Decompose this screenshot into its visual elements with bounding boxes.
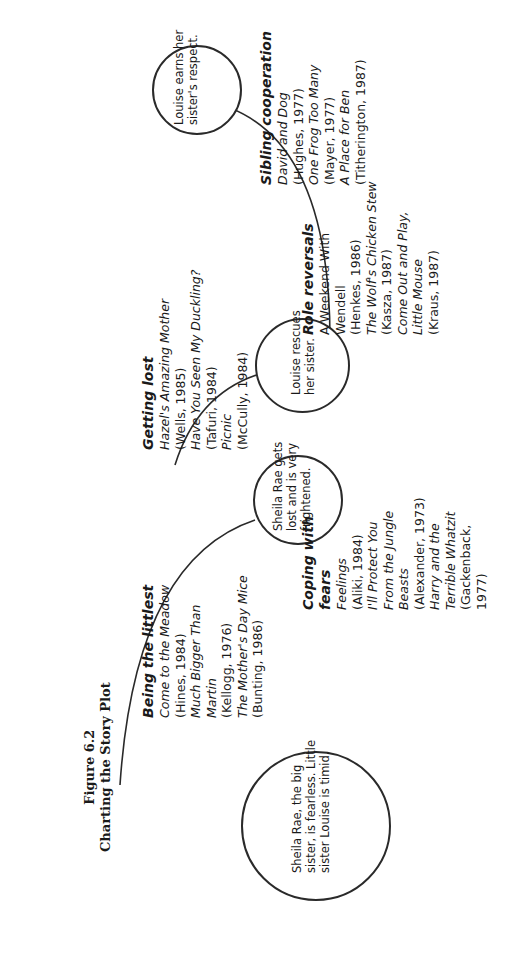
plot-node-1: Sheila Rae, the big sister, is fearless.… xyxy=(241,751,391,901)
theme-coping-with-fears: Coping with fears Feelings (Aliki, 1984)… xyxy=(300,497,489,610)
figure-number: Figure 6.2 xyxy=(82,682,98,852)
figure-caption: Charting the Story Plot xyxy=(98,682,114,852)
theme-getting-lost: Getting lost Hazel's Amazing Mother (Wel… xyxy=(140,270,250,450)
theme-being-the-littlest: Being the littlest Come to the Meadow (H… xyxy=(140,575,266,718)
theme-sibling-cooperation: Sibling cooperation David and Dog (Hughe… xyxy=(258,31,368,185)
theme-role-reversals: Role reversals A Weekend With Wendell (H… xyxy=(300,181,441,335)
figure-title: Figure 6.2 Charting the Story Plot xyxy=(82,682,114,852)
plot-node-4: Louise earns her sister's respect. xyxy=(152,45,242,135)
